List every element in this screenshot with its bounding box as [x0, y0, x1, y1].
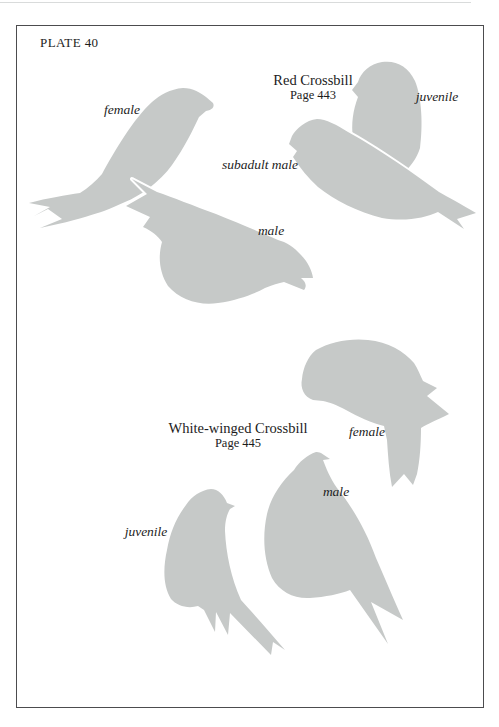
plate-page: PLATE 40 Red Crossbill Page 443 female j… [0, 0, 499, 727]
red-crossbill-header: Red Crossbill Page 443 [273, 73, 352, 103]
species-name: Red Crossbill [273, 73, 352, 89]
red-crossbill-female-label: female [104, 102, 140, 118]
white-winged-crossbill-juvenile-label: juvenile [125, 524, 168, 540]
species-page-ref: Page 445 [169, 437, 308, 451]
red-crossbill-juvenile-label: juvenile [416, 89, 459, 105]
white-winged-crossbill-male-label: male [323, 484, 349, 500]
species-name: White-winged Crossbill [169, 421, 308, 437]
red-crossbill-subadult-male-label: subadult male [222, 157, 298, 173]
species-page-ref: Page 443 [273, 89, 352, 103]
white-winged-crossbill-header: White-winged Crossbill Page 445 [169, 421, 308, 451]
bird-silhouettes-layer [0, 0, 499, 727]
white-winged-crossbill-juvenile-silhouette [164, 489, 285, 655]
white-winged-crossbill-female-label: female [349, 424, 385, 440]
red-crossbill-male-label: male [258, 223, 284, 239]
red-crossbill-male-silhouette [126, 179, 313, 304]
white-winged-crossbill-male-silhouette [264, 452, 403, 644]
